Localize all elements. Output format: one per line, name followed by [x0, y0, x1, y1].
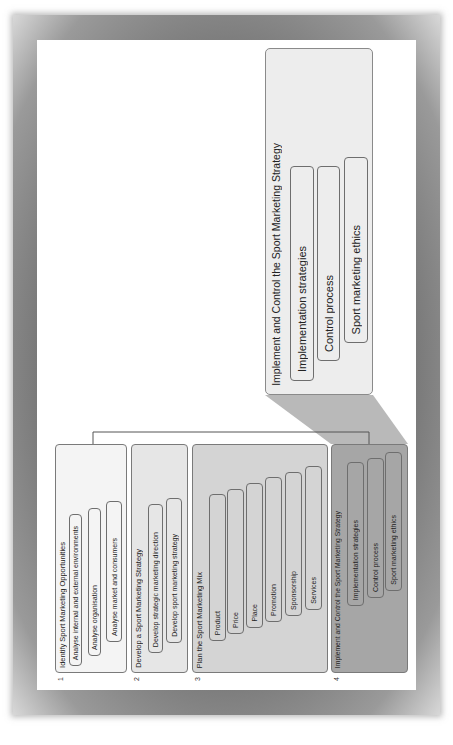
stage-1-title: Identify Sport Marketing Opportunities	[58, 542, 67, 668]
stage-3-item: Sponsorship	[285, 472, 302, 616]
stage-item-label: Sport marketing ethics	[390, 515, 397, 585]
callout-item-label: Control process	[323, 275, 335, 352]
stage-3-title: Plan the Sport Marketing Mix	[195, 572, 204, 668]
stage-2-item: Develop sport marketing strategy	[166, 498, 182, 643]
stage-1-number: 1	[57, 677, 64, 681]
stage-3-number: 3	[194, 677, 201, 681]
stage-3-item: Place	[246, 483, 263, 628]
stage-3-item: Promotion	[265, 477, 282, 622]
callout-item-control: Control process	[317, 166, 340, 361]
stage-item-label: Develop sport marketing strategy	[171, 534, 178, 637]
stage-3-item: Price	[227, 489, 244, 634]
callout-title: Implement and Control the Sport Marketin…	[270, 143, 282, 386]
callout-item-label: Sport marketing ethics	[350, 225, 362, 334]
callout-box: Implement and Control the Sport Marketin…	[265, 48, 373, 395]
stage-1-item: Analyse organisation	[88, 508, 101, 656]
stage-4-box: Implement and Control the Sport Marketin…	[331, 444, 408, 673]
stage-4-item: Control process	[367, 458, 384, 598]
callout-item-implementation: Implementation strategies	[290, 166, 314, 381]
stage-item-label: Analyse organisation	[91, 585, 98, 650]
stage-2-item: Develop strategic marketing direction	[148, 504, 163, 653]
stage-item-label: Control process	[372, 543, 379, 592]
stage-item-label: Analyse market and consumers	[111, 538, 118, 636]
stage-4-number: 4	[333, 677, 340, 681]
stage-3-item: Product	[209, 494, 226, 641]
stage-1-box: Identify Sport Marketing Opportunities A…	[55, 444, 127, 673]
stage-4-title: Implement and Control the Sport Marketin…	[334, 511, 341, 668]
stage-item-label: Implementation strategies	[352, 520, 359, 600]
callout-item-label: Implementation strategies	[296, 246, 308, 372]
stage-item-label: Sponsorship	[290, 571, 297, 610]
stage-2-title: Develop a Sport Marketing Strategy	[134, 549, 143, 668]
stage-item-label: Product	[214, 611, 221, 635]
stage-1-item: Analyse internal and external environmen…	[69, 514, 82, 666]
stage-item-label: Analyse internal and external environmen…	[72, 526, 79, 660]
stage-item-label: Services	[310, 577, 317, 604]
stage-1-item: Analyse market and consumers	[106, 501, 122, 642]
callout-item-ethics: Sport marketing ethics	[344, 157, 368, 343]
stage-2-box: Develop a Sport Marketing Strategy Devel…	[131, 444, 188, 673]
stage-item-label: Price	[232, 612, 239, 628]
stage-3-box: Plan the Sport Marketing Mix Product Pri…	[192, 444, 328, 673]
stage-4-item: Sport marketing ethics	[385, 452, 402, 591]
stage-item-label: Place	[251, 604, 258, 622]
stage-2-number: 2	[133, 677, 140, 681]
stage-item-label: Promotion	[270, 584, 277, 616]
stage-item-label: Develop strategic marketing direction	[152, 532, 159, 647]
callout-wedge	[265, 395, 408, 444]
stage-4-item: Implementation strategies	[347, 462, 364, 606]
stage-3-item: Services	[305, 466, 322, 610]
